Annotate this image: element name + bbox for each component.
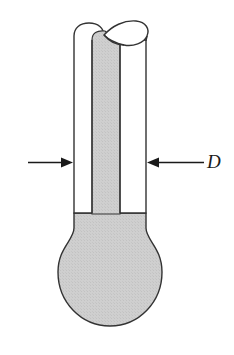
left-arrow-head — [61, 158, 73, 168]
inner-column-group — [92, 31, 120, 214]
diameter-label: D — [207, 152, 221, 171]
figure-canvas: D — [0, 0, 234, 355]
left-dimension-arrow — [28, 158, 73, 168]
right-arrow-head — [147, 158, 159, 168]
right-dimension-arrow — [147, 158, 204, 168]
bulb-body — [58, 213, 162, 326]
inner-liquid-column — [92, 31, 120, 214]
capillary-tube-diagram — [0, 0, 234, 355]
